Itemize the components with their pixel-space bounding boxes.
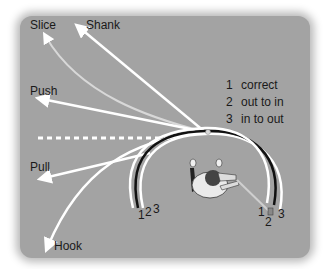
legend-num-2: 2 [226, 95, 233, 109]
shank-path [80, 28, 205, 132]
left-num-2: 2 [145, 205, 152, 219]
hook-path [48, 132, 205, 246]
legend-text-1: correct [241, 78, 278, 92]
right-num-3: 3 [278, 207, 285, 221]
left-num-1: 1 [138, 208, 145, 222]
right-num-2: 2 [265, 215, 272, 229]
legend-num-1: 1 [226, 78, 233, 92]
golf-swing-diagram: Slice Shank Push Pull Hook 1 correct 2 o… [0, 0, 327, 269]
label-hook: Hook [54, 239, 83, 253]
label-shank: Shank [86, 18, 121, 32]
legend-num-3: 3 [226, 112, 233, 126]
legend-text-3: in to out [241, 112, 284, 126]
right-num-1: 1 [258, 205, 265, 219]
swing-path-correct [130, 128, 269, 208]
legend: 1 correct 2 out to in 3 in to out [226, 78, 284, 126]
ball [206, 130, 211, 135]
label-slice: Slice [30, 18, 56, 32]
left-num-3: 3 [153, 202, 160, 216]
label-push: Push [30, 84, 57, 98]
slice-path [46, 37, 205, 132]
legend-text-2: out to in [241, 95, 284, 109]
label-pull: Pull [30, 160, 50, 174]
